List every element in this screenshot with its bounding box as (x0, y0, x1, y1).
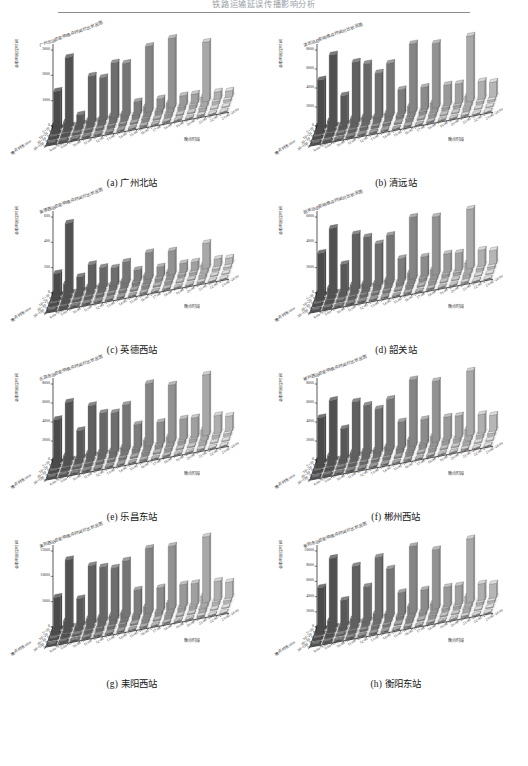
y-tick-label: 0 (273, 124, 314, 128)
figure-caption: (a) 广州北站 (0, 175, 264, 189)
y-tick-label: 0 (9, 124, 50, 128)
y-tick-label: 0 (273, 458, 314, 462)
chart-g: 耒阳西站总影响晚点时间对比状况图总影响延误时间0500010000150005~… (9, 523, 255, 675)
y-tick-label: 200 (9, 266, 50, 270)
figure-panel: 衡阳东站总影响晚点时间对比状况图总影响延误时间02000400060008000… (264, 523, 528, 690)
chart-h: 衡阳东站总影响晚点时间对比状况图总影响延误时间02000400060008000… (273, 523, 519, 675)
y-tick-label: 2000 (273, 105, 314, 109)
figure-caption: (d) 韶关站 (264, 342, 528, 356)
y-tick-label: 6000 (273, 401, 314, 405)
y-tick-label: 6000 (273, 215, 314, 219)
y-tick-label: 0 (273, 291, 314, 295)
y-tick-label: 2000 (273, 266, 314, 270)
time-axis-title: 晚点时段 (448, 136, 464, 142)
y-tick-label: 6000 (9, 401, 50, 405)
figure-panel: 郴州西站总影响晚点时间对比状况图总影响延误时间02000400060008000… (264, 356, 528, 523)
figure-row: 乐昌东站总影响晚点时间对比状况图总影响延误时间02000400060008000… (0, 356, 528, 523)
chart-a: 广州北站总影响晚点时间对比状况图总影响延误时间01000200030005~10… (9, 22, 255, 174)
y-tick-label: 2000 (273, 610, 314, 614)
figure-caption: (e) 乐昌东站 (0, 509, 264, 523)
time-axis-title: 晚点时段 (184, 303, 200, 309)
y-tick-label: 0 (9, 625, 50, 629)
chart-d: 韶关站总影响晚点时间对比状况图总影响延误时间02000400060005~101… (273, 189, 519, 341)
time-axis-title: 晚点时段 (448, 470, 464, 476)
figure-row: 耒阳西站总影响晚点时间对比状况图总影响延误时间0500010000150005~… (0, 523, 528, 690)
y-tick-label: 10000 (9, 574, 50, 578)
y-axis-title: 总影响延误时间 (13, 206, 19, 235)
y-tick-label: 10000 (273, 549, 314, 553)
figure-panel: 英德西站总影响晚点时间对比状况图总影响延误时间02004006005~1010~… (0, 189, 264, 356)
y-tick-label: 4000 (273, 595, 314, 599)
running-header: 铁路运输延误传播影响分析 (0, 0, 528, 16)
chart-b: 清远站总影响晚点时间对比状况图总影响延误时间020004000600080005… (273, 22, 519, 174)
figure-panel: 清远站总影响晚点时间对比状况图总影响延误时间020004000600080005… (264, 22, 528, 189)
figure-panel: 广州北站总影响晚点时间对比状况图总影响延误时间01000200030005~10… (0, 22, 264, 189)
y-tick-label: 2000 (9, 439, 50, 443)
y-tick-label: 2000 (9, 73, 50, 77)
y-tick-label: 8000 (273, 382, 314, 386)
y-tick-label: 0 (9, 291, 50, 295)
y-tick-label: 4000 (273, 240, 314, 244)
figure-page: 铁路运输延误传播影响分析 广州北站总影响晚点时间对比状况图总影响延误时间0100… (0, 0, 528, 766)
chart-f: 郴州西站总影响晚点时间对比状况图总影响延误时间02000400060008000… (273, 356, 519, 508)
y-tick-label: 8000 (273, 564, 314, 568)
figure-caption: (f) 郴州西站 (264, 509, 528, 523)
y-tick-label: 4000 (273, 420, 314, 424)
figure-caption: (h) 衡阳东站 (264, 676, 528, 690)
y-tick-label: 6000 (273, 67, 314, 71)
header-text: 铁路运输延误传播影响分析 (0, 0, 528, 9)
figure-panel: 韶关站总影响晚点时间对比状况图总影响延误时间02000400060005~101… (264, 189, 528, 356)
chart-e: 乐昌东站总影响晚点时间对比状况图总影响延误时间02000400060008000… (9, 356, 255, 508)
y-axis-title: 总影响延误时间 (13, 373, 19, 402)
y-tick-label: 600 (9, 215, 50, 219)
figure-caption: (c) 英德西站 (0, 342, 264, 356)
y-tick-label: 0 (9, 458, 50, 462)
y-tick-label: 5000 (9, 600, 50, 604)
y-tick-label: 3000 (9, 48, 50, 52)
figure-row: 广州北站总影响晚点时间对比状况图总影响延误时间01000200030005~10… (0, 22, 528, 189)
y-tick-label: 8000 (9, 382, 50, 386)
y-tick-label: 15000 (9, 549, 50, 553)
time-axis-title: 晚点时段 (184, 470, 200, 476)
y-axis-title: 总影响延误时间 (277, 373, 283, 402)
header-rule (58, 12, 470, 13)
y-tick-label: 4000 (9, 420, 50, 424)
y-tick-label: 2000 (273, 439, 314, 443)
y-tick-label: 1000 (9, 99, 50, 103)
figure-row: 英德西站总影响晚点时间对比状况图总影响延误时间02004006005~1010~… (0, 189, 528, 356)
y-tick-label: 400 (9, 240, 50, 244)
y-tick-label: 4000 (273, 86, 314, 90)
time-axis-title: 晚点时段 (448, 637, 464, 643)
y-axis-title: 总影响延误时间 (13, 540, 19, 569)
y-tick-label: 0 (273, 625, 314, 629)
y-axis-title: 总影响延误时间 (13, 39, 19, 68)
figure-panel: 耒阳西站总影响晚点时间对比状况图总影响延误时间0500010000150005~… (0, 523, 264, 690)
time-axis-title: 晚点时段 (448, 303, 464, 309)
figure-panel: 乐昌东站总影响晚点时间对比状况图总影响延误时间02000400060008000… (0, 356, 264, 523)
y-tick-label: 8000 (273, 48, 314, 52)
y-axis-title: 总影响延误时间 (277, 39, 283, 68)
time-axis-title: 晚点时段 (184, 136, 200, 142)
figure-caption: (g) 耒阳西站 (0, 676, 264, 690)
time-axis-title: 晚点时段 (184, 637, 200, 643)
figure-grid: 广州北站总影响晚点时间对比状况图总影响延误时间01000200030005~10… (0, 22, 528, 690)
chart-c: 英德西站总影响晚点时间对比状况图总影响延误时间02004006005~1010~… (9, 189, 255, 341)
figure-caption: (b) 清远站 (264, 175, 528, 189)
y-axis-title: 总影响延误时间 (277, 206, 283, 235)
y-tick-label: 6000 (273, 579, 314, 583)
